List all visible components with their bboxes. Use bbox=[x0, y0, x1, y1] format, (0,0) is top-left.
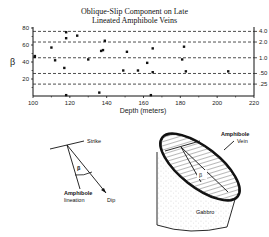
right-axis-label: 2.0 bbox=[259, 39, 268, 45]
data-point bbox=[122, 69, 124, 71]
data-points bbox=[34, 31, 230, 96]
data-point bbox=[98, 91, 100, 93]
data-point bbox=[137, 69, 139, 71]
lineation-label-2: lineation bbox=[64, 197, 85, 203]
right-axis-label: .50 bbox=[259, 70, 268, 76]
y-tick-label: 80 bbox=[22, 25, 29, 31]
x-axis-ticks: 100120140160180200220 bbox=[28, 96, 260, 106]
data-point bbox=[34, 56, 36, 58]
data-point bbox=[87, 58, 89, 60]
reference-lines: 4.02.01.0.50.25 bbox=[33, 28, 268, 87]
rock-label: Gabbro bbox=[196, 209, 214, 215]
data-point bbox=[65, 37, 67, 39]
right-axis-label: 1.0 bbox=[259, 55, 268, 61]
data-point bbox=[146, 62, 148, 64]
y-tick-label: 60 bbox=[22, 42, 29, 48]
right-axis-label: 4.0 bbox=[259, 28, 268, 34]
data-point bbox=[65, 31, 67, 33]
x-tick-label: 100 bbox=[28, 100, 39, 106]
data-point bbox=[63, 67, 65, 69]
data-point bbox=[50, 46, 52, 48]
y-axis-title: β bbox=[10, 57, 15, 67]
data-point bbox=[150, 94, 152, 96]
data-point bbox=[185, 70, 187, 72]
dip-line bbox=[67, 145, 106, 193]
strike-label: Strike bbox=[87, 138, 101, 144]
core-cylinder-diagram: β Amphibole Vein Gabbro bbox=[150, 122, 250, 231]
data-point bbox=[152, 71, 154, 73]
data-point bbox=[227, 70, 229, 72]
vein-label-1: Amphibole bbox=[221, 131, 249, 137]
data-point bbox=[104, 40, 106, 42]
lineation-label-1: Amphibole bbox=[64, 190, 92, 196]
strike-dip-diagram: Strike β Amphibole lineation Dip bbox=[50, 138, 115, 203]
data-point bbox=[183, 46, 185, 48]
data-point bbox=[54, 59, 56, 61]
x-tick-label: 180 bbox=[175, 100, 186, 106]
data-point bbox=[181, 58, 183, 60]
x-tick-label: 220 bbox=[249, 100, 260, 106]
x-tick-label: 120 bbox=[65, 100, 76, 106]
data-point bbox=[102, 49, 104, 51]
data-point bbox=[126, 51, 128, 53]
right-axis-label: .25 bbox=[259, 81, 268, 87]
vein-leader-line bbox=[224, 141, 234, 150]
beta-label-left: β bbox=[77, 165, 81, 171]
vein-label-2: Vein bbox=[237, 138, 248, 144]
x-axis-title: Depth (meters) bbox=[120, 107, 167, 115]
data-point bbox=[65, 94, 67, 96]
x-tick-label: 160 bbox=[138, 100, 149, 106]
dip-label: Dip bbox=[107, 197, 115, 203]
beta-label-right: β bbox=[199, 172, 202, 178]
scatter-chart: 4.02.01.0.50.25 100120140160180200220 20… bbox=[0, 0, 269, 237]
data-point bbox=[152, 47, 154, 49]
x-tick-label: 200 bbox=[212, 100, 223, 106]
dip-arrow-icon bbox=[101, 188, 106, 193]
x-tick-label: 140 bbox=[102, 100, 113, 106]
y-axis-ticks: 20406080 bbox=[22, 25, 33, 88]
y-tick-label: 20 bbox=[22, 76, 29, 82]
y-tick-label: 40 bbox=[22, 59, 29, 65]
data-point bbox=[76, 34, 78, 36]
